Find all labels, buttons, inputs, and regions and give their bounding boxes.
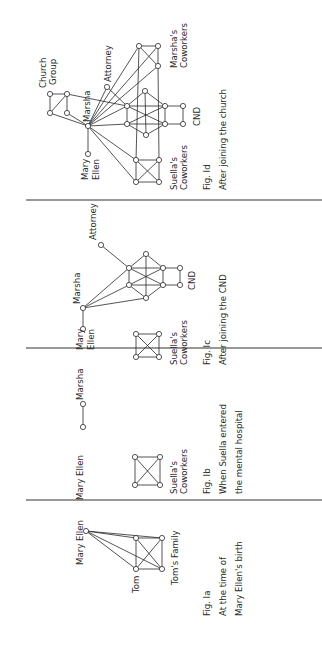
node-1b-mary_ellen <box>80 424 85 429</box>
edge-1c-h_top-h_ul <box>129 254 146 268</box>
label-marsha-1d: Marsha <box>82 91 92 122</box>
caption-1c-line1: After joining the CND <box>218 274 228 365</box>
node-1d-s2 <box>156 157 161 162</box>
node-1d-s1 <box>133 157 138 162</box>
node-1a-f4 <box>159 566 164 571</box>
caption-1d-line1: After joining the church <box>218 89 228 190</box>
node-1d-cg3 <box>47 110 52 115</box>
edge-1d-h_top-h_bot <box>145 91 146 135</box>
label-marsha-1c: Marsha <box>72 273 82 304</box>
label-suellas-coworkers-1b-line2: Coworkers <box>179 448 189 494</box>
edge-1c-h_ll-h_bot <box>129 285 146 298</box>
node-1d-cg4 <box>64 110 69 115</box>
edge-1d-h_top-h_ul <box>127 91 145 106</box>
node-1d-marsha <box>85 123 90 128</box>
node-1a-f2 <box>159 535 164 540</box>
edge-1d-marsha-mc3 <box>88 66 158 126</box>
node-1d-c2 <box>180 121 185 126</box>
edge-1c-attorney-h_ul <box>101 245 129 268</box>
node-1c-h_bot <box>143 295 148 300</box>
edge-1d-h_top-h_ur <box>145 91 165 106</box>
node-1b-s2 <box>157 454 162 459</box>
edge-1c-h_lr-h_bot <box>146 285 163 298</box>
label-suellas-coworkers-1d-line1: Suella's <box>169 156 179 190</box>
node-1d-attorney <box>104 84 109 89</box>
label-church-1d: Church <box>38 58 48 88</box>
caption-1a-line1: At the time of <box>218 556 228 616</box>
node-1c-marsha <box>80 305 85 310</box>
caption-1b-line1: When Suella entered <box>218 404 228 494</box>
node-1c-h_ul <box>126 265 131 270</box>
label-mary-1c: Mary <box>75 329 85 350</box>
social-network-figure: Mary Ellen Tom Tom's Family Fig. Ia At t… <box>0 0 322 651</box>
node-1c-s2 <box>156 331 161 336</box>
edge-1c-h_top-h_ur <box>146 254 163 268</box>
edge-1d-mc1-s1 <box>136 46 139 160</box>
edge-1d-h_lr-h_bot <box>146 124 165 135</box>
label-attorney-1d: Attorney <box>103 45 113 82</box>
node-1d-cg2 <box>64 91 69 96</box>
label-attorney-1c: Attorney <box>88 203 98 240</box>
label-suellas-coworkers-1b-line1: Suella's <box>169 460 179 494</box>
node-1d-h_ul <box>124 103 129 108</box>
node-1c-h_ll <box>126 282 131 287</box>
node-1c-attorney <box>98 242 103 247</box>
node-1b-s4 <box>157 482 162 487</box>
fig-label-1c: Fig. Ic <box>202 340 212 365</box>
node-1a-f1 <box>133 535 138 540</box>
label-group-1d: Group <box>48 59 58 85</box>
edge-1d-cg2-cg3 <box>50 94 67 113</box>
node-1b-s1 <box>132 454 137 459</box>
label-tom-1a: Tom <box>131 576 141 594</box>
node-1a-tom <box>133 566 138 571</box>
label-suellas-coworkers-1c-line2: Coworkers <box>179 319 189 365</box>
caption-1b-line2: the mental hospital <box>234 410 244 494</box>
edge-1d-marsha-s1 <box>88 126 136 160</box>
node-1d-c1 <box>180 103 185 108</box>
node-1d-mc2 <box>155 43 160 48</box>
label-mary-ellen-1b: Mary Ellen <box>75 455 85 500</box>
edge-1d-marsha-h_ll <box>88 124 127 126</box>
label-cnd-1d: CND <box>192 107 202 126</box>
label-cnd-1c: CND <box>187 271 197 290</box>
node-1d-s3 <box>133 179 138 184</box>
node-1c-s1 <box>133 331 138 336</box>
label-marsha-1b: Marsha <box>75 369 85 400</box>
network-nodes <box>47 43 185 571</box>
label-marshas-coworkers-1d-line1: Marsha's <box>169 29 179 68</box>
network-diagrams-svg: Mary Ellen Tom Tom's Family Fig. Ia At t… <box>0 0 322 651</box>
label-ellen-1d: Ellen <box>91 159 101 180</box>
label-marshas-coworkers-1d-line2: Coworkers <box>179 22 189 68</box>
label-toms-family-1a: Tom's Family <box>170 530 180 586</box>
node-1b-s3 <box>132 482 137 487</box>
fig-label-1d: Fig. Id <box>202 164 212 190</box>
label-mary-1d: Mary <box>80 159 90 180</box>
edge-1d-marsha-mc1 <box>88 46 139 126</box>
node-1c-c1 <box>177 265 182 270</box>
node-1c-h_top <box>143 251 148 256</box>
label-suellas-coworkers-1d-line2: Coworkers <box>179 144 189 190</box>
node-1d-mc3 <box>155 63 160 68</box>
node-1c-h_ur <box>160 265 165 270</box>
node-1d-s4 <box>156 179 161 184</box>
node-1d-mc1 <box>136 43 141 48</box>
label-ellen-1c: Ellen <box>86 329 96 350</box>
node-1d-mary_ellen <box>85 151 90 156</box>
node-1c-s4 <box>156 354 161 359</box>
node-1d-h_ur <box>162 103 167 108</box>
node-1d-h_ll <box>124 121 129 126</box>
node-1c-c2 <box>177 282 182 287</box>
node-1d-h_bot <box>143 132 148 137</box>
node-1c-h_lr <box>160 282 165 287</box>
label-suellas-coworkers-1c-line1: Suella's <box>169 331 179 365</box>
node-1d-h_lr <box>162 121 167 126</box>
fig-label-1b: Fig. Ib <box>202 468 212 494</box>
fig-label-1a: Fig. Ia <box>202 591 212 616</box>
caption-1a-line2: Mary Ellen's birth <box>234 541 244 616</box>
node-1d-h_top <box>142 88 147 93</box>
edge-1d-mc3-s2 <box>158 66 159 160</box>
node-1b-marsha <box>80 401 85 406</box>
node-1c-s3 <box>133 354 138 359</box>
edge-1d-attorney-h_ul <box>107 87 127 106</box>
label-mary-ellen-1a: Mary Ellen <box>75 520 85 565</box>
